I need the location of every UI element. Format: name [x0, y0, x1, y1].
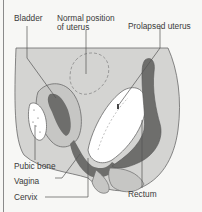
diagram-frame: Bladder Normal position of uterus Prolap… [0, 0, 202, 212]
label-cervix: Cervix [14, 193, 38, 202]
label-normal-position-line2: of uterus [57, 23, 89, 32]
label-bladder: Bladder [14, 14, 43, 23]
label-vagina: Vagina [14, 177, 39, 186]
label-prolapsed-uterus: Prolapsed uterus [128, 22, 191, 31]
label-pubic-bone: Pubic bone [14, 162, 56, 171]
label-rectum: Rectum [128, 190, 157, 199]
